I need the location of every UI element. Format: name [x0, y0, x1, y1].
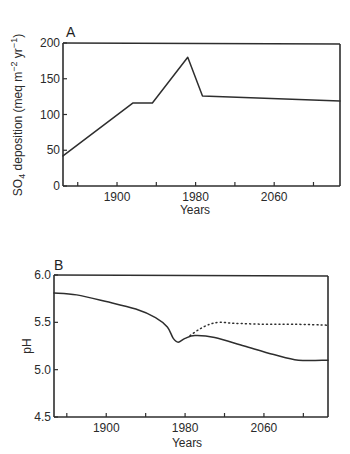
- y-tick-label: 4.5: [34, 410, 51, 424]
- panel-a-y-axis-label: SO4 deposition (meq m−2 yr−1): [9, 34, 27, 196]
- dotted-series-line: [190, 322, 328, 335]
- y-tick-label: 5.0: [34, 363, 51, 377]
- solid-series-line: [63, 57, 340, 156]
- y-tick-label: 150: [40, 72, 60, 86]
- top-frame-line: [63, 43, 340, 44]
- y-tick-label: 0: [53, 179, 60, 193]
- panel-b: B 1900198020604.55.05.56.0 Years pH: [20, 257, 328, 450]
- x-tick-label: 2060: [261, 190, 288, 204]
- x-tick-label: 1900: [104, 190, 131, 204]
- solid-series-line: [54, 293, 328, 361]
- x-tick-label: 1900: [93, 421, 120, 435]
- y-tick-label: 100: [40, 108, 60, 122]
- y-tick-label: 50: [47, 143, 61, 157]
- figure: A 190019802060050100150200 Years SO4 dep…: [0, 0, 350, 454]
- panel-a: A 190019802060050100150200 Years SO4 dep…: [9, 24, 340, 217]
- y-tick-label: 200: [40, 36, 60, 50]
- panel-a-x-axis-label: Years: [180, 203, 210, 217]
- panel-a-label: A: [66, 24, 76, 40]
- top-frame-line: [54, 275, 328, 276]
- x-tick-label: 2060: [251, 421, 278, 435]
- panel-a-plot-area: 190019802060050100150200: [40, 36, 340, 204]
- x-tick-label: 1980: [172, 421, 199, 435]
- panel-b-x-axis-label: Years: [172, 436, 202, 450]
- x-tick-label: 1980: [182, 190, 209, 204]
- panel-b-plot-area: 1900198020604.55.05.56.0: [34, 268, 328, 435]
- panel-b-y-axis-label: pH: [20, 338, 34, 353]
- y-tick-label: 5.5: [34, 315, 51, 329]
- panel-b-label: B: [54, 257, 63, 273]
- y-tick-label: 6.0: [34, 268, 51, 282]
